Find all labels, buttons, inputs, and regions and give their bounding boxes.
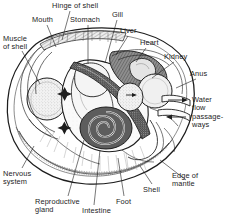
label-shell: Shell [143,186,160,194]
label-nervous-system: Nervous system [3,170,31,187]
label-edge-of-mantle: Edge of mantle [172,172,198,189]
label-muscle-of-shell: Muscle of shell [3,35,27,52]
label-intestine: Intestine [82,207,111,215]
label-gill: Gill [112,11,123,19]
label-mouth: Mouth [32,16,53,24]
label-reproductive-gland: Reproductive gland [35,198,80,215]
muscle-of-shell-anterior [27,78,67,120]
label-liver: Liver [120,27,137,35]
anatomy-figure: Hinge of shell Mouth Stomach Gill Liver … [0,0,230,224]
posterior-adductor-muscle [117,83,143,111]
label-kidney: Kidney [164,53,187,61]
kidney [138,74,172,108]
label-foot: Foot [116,198,131,206]
label-anus: Anus [190,70,207,78]
intestine-coil [80,107,132,149]
label-water-flow-passageways: Water flow passage- ways [192,96,223,130]
label-hinge-of-shell: Hinge of shell [52,2,98,10]
label-stomach: Stomach [70,16,100,24]
label-heart: Heart [140,39,159,47]
